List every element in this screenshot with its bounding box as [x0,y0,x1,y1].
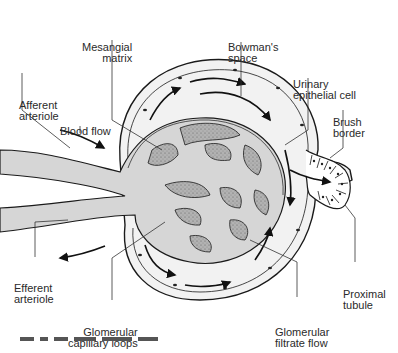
label-efferent-arteriole: Efferentarteriole [14,261,54,327]
label-brush-border: Brushborder [333,95,365,161]
label-mesangial-matrix: Mesangialmatrix [82,20,132,86]
label-afferent-arteriole: Afferentarteriole [19,78,59,144]
figure-caption-cropped [20,329,320,335]
label-blood-flow: Blood flow [60,104,111,159]
label-proximal-tubule: Proximaltubule [343,267,386,333]
label-bowmans-space: Bowman'sspace [228,20,278,86]
